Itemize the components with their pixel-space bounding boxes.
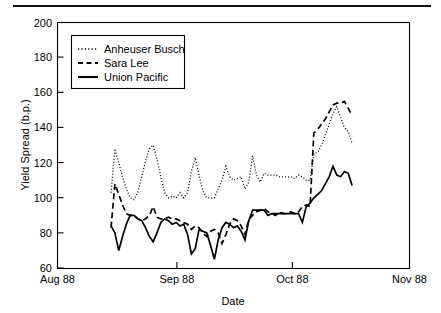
x-tick-label-nov: Nov 88 [392,273,427,285]
legend-label-sara-lee: Sara Lee [104,57,149,69]
x-tick-label-sep: Sep 88 [159,273,194,285]
y-axis-title: Yield Spread (b.p.) [19,99,31,190]
y-tick-label-180: 180 [34,51,52,63]
y-tick-label-200: 200 [34,17,52,29]
legend-label-anheuser-busch: Anheuser Busch [104,43,185,55]
chart-canvas: 60 80 100 120 140 160 180 200 Aug 88 Sep… [0,0,441,313]
chart-figure: 60 80 100 120 140 160 180 200 Aug 88 Sep… [0,0,441,313]
x-axis-title: Date [221,295,244,307]
y-tick-label-80: 80 [40,227,52,239]
series-line-sara-lee [111,101,352,243]
x-axis-ticks [58,262,410,268]
series-group [111,101,352,259]
y-tick-label-140: 140 [34,121,52,133]
legend: Anheuser Busch Sara Lee Union Pacific [72,36,185,89]
series-line-union-pacific [111,166,352,259]
y-axis-ticks [58,23,64,269]
x-tick-label-oct: Oct 88 [276,273,308,285]
series-line-anheuser-busch [111,107,352,200]
x-tick-label-aug: Aug 88 [40,273,75,285]
y-tick-label-160: 160 [34,86,52,98]
legend-label-union-pacific: Union Pacific [104,71,169,83]
y-tick-label-100: 100 [34,192,52,204]
y-tick-label-120: 120 [34,157,52,169]
